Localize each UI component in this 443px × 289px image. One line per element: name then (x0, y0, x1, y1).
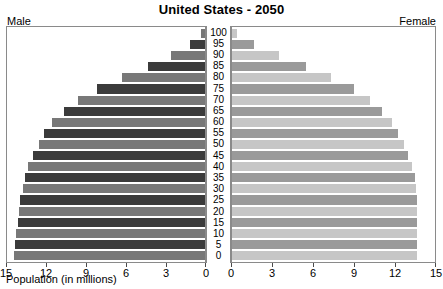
male-bar[interactable] (23, 184, 205, 193)
age-label: 20 (207, 206, 230, 217)
male-bar[interactable] (18, 218, 205, 227)
female-bar[interactable] (232, 107, 382, 116)
male-bar[interactable] (64, 107, 205, 116)
male-bar-rows (7, 28, 205, 261)
male-bar[interactable] (201, 29, 205, 38)
bar-row (7, 106, 205, 117)
female-plot-panel (231, 26, 436, 263)
male-bar[interactable] (39, 140, 205, 149)
age-label: 0 (207, 251, 230, 262)
age-label: 85 (207, 61, 230, 72)
female-bar[interactable] (232, 140, 404, 149)
age-label: 15 (207, 217, 230, 228)
axis-tick-label: 0 (203, 267, 209, 279)
female-bar[interactable] (232, 118, 392, 127)
bar-row (7, 39, 205, 50)
female-bar[interactable] (232, 29, 237, 38)
female-bar[interactable] (232, 51, 279, 60)
female-bar[interactable] (232, 73, 331, 82)
male-bar[interactable] (148, 62, 205, 71)
male-bar[interactable] (190, 40, 205, 49)
bar-row (232, 250, 435, 261)
axis-tick-label: 3 (269, 267, 275, 279)
male-bar[interactable] (33, 151, 205, 160)
bar-row (232, 194, 435, 205)
age-label: 90 (207, 49, 230, 60)
female-bar-rows (232, 28, 435, 261)
bar-row (7, 228, 205, 239)
female-bar[interactable] (232, 84, 354, 93)
female-bar[interactable] (232, 207, 417, 216)
age-axis: 1009590858075706560555045403530252015105… (206, 26, 231, 263)
female-bar[interactable] (232, 62, 306, 71)
bar-row (232, 161, 435, 172)
male-bar[interactable] (122, 73, 205, 82)
age-label: 10 (207, 228, 230, 239)
bar-row (7, 206, 205, 217)
female-bar[interactable] (232, 229, 417, 238)
female-bar[interactable] (232, 218, 417, 227)
bar-row (7, 128, 205, 139)
bar-row (232, 117, 435, 128)
male-bar[interactable] (28, 162, 205, 171)
male-plot-panel (6, 26, 206, 263)
female-bar[interactable] (232, 40, 254, 49)
male-bar[interactable] (97, 84, 205, 93)
age-label: 40 (207, 161, 230, 172)
female-bar[interactable] (232, 240, 417, 249)
bar-row (7, 117, 205, 128)
bar-row (232, 72, 435, 83)
male-bar[interactable] (15, 240, 205, 249)
axis-tick-label: 0 (228, 267, 234, 279)
female-bar[interactable] (232, 96, 370, 105)
female-bar[interactable] (232, 184, 416, 193)
age-label: 80 (207, 72, 230, 83)
bar-row (232, 206, 435, 217)
male-bar[interactable] (20, 195, 205, 204)
bar-row (232, 228, 435, 239)
bar-row (232, 183, 435, 194)
bar-row (7, 61, 205, 72)
bar-row (7, 83, 205, 94)
bar-row (232, 50, 435, 61)
age-label: 95 (207, 38, 230, 49)
male-bar[interactable] (19, 207, 205, 216)
axis-tick-label: 15 (430, 267, 442, 279)
male-bar[interactable] (52, 118, 205, 127)
axis-tick-label: 9 (351, 267, 357, 279)
female-bar[interactable] (232, 162, 412, 171)
female-bar[interactable] (232, 251, 417, 260)
bar-row (7, 72, 205, 83)
bar-row (232, 150, 435, 161)
age-label: 65 (207, 105, 230, 116)
female-bar[interactable] (232, 173, 415, 182)
female-bar[interactable] (232, 195, 417, 204)
age-label: 70 (207, 94, 230, 105)
age-label: 30 (207, 184, 230, 195)
axis-tick-label: 3 (163, 267, 169, 279)
bar-row (232, 83, 435, 94)
age-label: 75 (207, 83, 230, 94)
male-bar[interactable] (25, 173, 205, 182)
bar-row (7, 194, 205, 205)
bar-row (232, 95, 435, 106)
bar-row (232, 217, 435, 228)
bar-row (232, 39, 435, 50)
male-bar[interactable] (78, 96, 205, 105)
bar-row (232, 106, 435, 117)
male-bar[interactable] (171, 51, 205, 60)
age-label: 5 (207, 240, 230, 251)
axis-tick-label: 6 (310, 267, 316, 279)
male-bar[interactable] (16, 229, 205, 238)
bar-row (7, 50, 205, 61)
age-label: 50 (207, 139, 230, 150)
age-label: 60 (207, 117, 230, 128)
male-bar[interactable] (14, 251, 205, 260)
bar-row (7, 250, 205, 261)
female-bar[interactable] (232, 151, 408, 160)
bar-row (232, 139, 435, 150)
age-label: 35 (207, 172, 230, 183)
bar-row (7, 150, 205, 161)
male-bar[interactable] (44, 129, 205, 138)
female-bar[interactable] (232, 129, 398, 138)
